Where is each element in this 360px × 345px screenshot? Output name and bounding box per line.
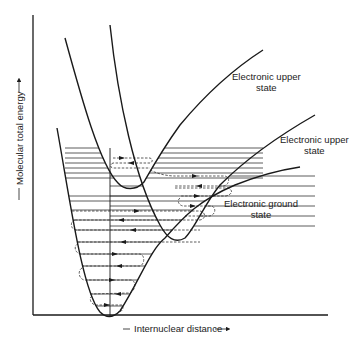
- potential-energy-diagram: [0, 0, 360, 345]
- ground-state-curve: [57, 128, 300, 316]
- transition-arrows: [104, 156, 202, 307]
- upper-state-1-vibrational-levels: [60, 148, 270, 178]
- x-axis-label: Internuclear distance: [134, 323, 222, 334]
- ground-state-label: Electronic ground state: [224, 198, 298, 220]
- relaxation-paths-upper: [111, 158, 232, 216]
- upper-state-1-curve: [65, 38, 263, 189]
- upper-state-1-label: Electronic upper state: [232, 71, 301, 93]
- upper-state-2-label: Electronic upper state: [280, 134, 349, 156]
- y-axis-label: Molecular total energy: [14, 55, 25, 185]
